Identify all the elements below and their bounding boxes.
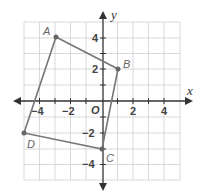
- point-c-label: C: [106, 152, 114, 164]
- x-axis-left-arrow-icon: [13, 97, 21, 105]
- coordinate-plane: x y O −4 −2 2 4 4 2 −2 −4 A B C D: [0, 0, 198, 196]
- point-d: [22, 131, 27, 136]
- point-b-label: B: [123, 58, 130, 70]
- x-tick-label: 4: [161, 105, 168, 117]
- origin-label: O: [91, 104, 100, 116]
- y-tick-label: 4: [92, 32, 99, 44]
- y-axis-label: y: [109, 7, 117, 22]
- x-tick-label: −2: [62, 105, 75, 117]
- x-tick-label: 2: [130, 105, 136, 117]
- point-d-label: D: [27, 138, 35, 150]
- x-axis-label: x: [186, 83, 193, 98]
- point-a: [54, 35, 59, 40]
- y-tick-label: −4: [82, 158, 95, 170]
- point-a-label: A: [42, 25, 50, 37]
- x-axis-right-arrow-icon: [185, 97, 193, 105]
- y-tick-label: 2: [92, 63, 98, 75]
- y-axis-up-arrow-icon: [99, 11, 107, 19]
- y-axis-down-arrow-icon: [99, 183, 107, 191]
- point-b: [116, 67, 121, 72]
- y-tick-label: −2: [82, 127, 95, 139]
- point-c: [100, 147, 105, 152]
